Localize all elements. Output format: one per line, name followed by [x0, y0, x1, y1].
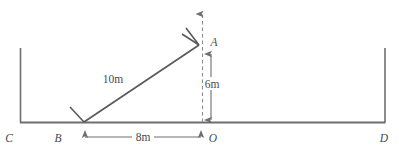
height-measure-label: 6m: [205, 78, 220, 90]
ladder-foot-marker-icon: [70, 107, 84, 122]
ladder-line: [84, 45, 199, 122]
ladder-top-marker-icon: [182, 28, 199, 45]
distance-measure-label: 8m: [136, 131, 151, 143]
point-label-a: A: [209, 36, 218, 48]
point-label-d: D: [379, 132, 389, 144]
point-label-c: C: [5, 132, 13, 144]
diagram-canvas: 6m 8m 10m C B O D A: [0, 0, 399, 160]
ladder-geometry-diagram: 6m 8m 10m C B O D A: [0, 0, 399, 160]
ladder-length-label: 10m: [103, 73, 124, 85]
point-label-o: O: [209, 132, 218, 144]
point-label-b: B: [54, 132, 61, 144]
